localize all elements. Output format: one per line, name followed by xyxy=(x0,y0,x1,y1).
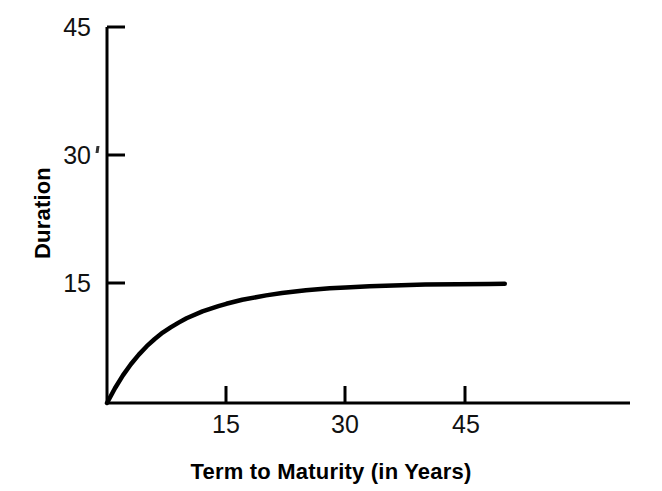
y-axis-tick-label-15: 15 xyxy=(31,271,91,296)
x-axis-tick-label-30: 30 xyxy=(315,412,375,437)
x-axis-tick-label-45: 45 xyxy=(436,412,496,437)
duration-curve xyxy=(107,284,505,403)
x-axis-title: Term to Maturity (in Years) xyxy=(0,459,662,485)
y-axis-tick-label-45: 45 xyxy=(31,15,91,40)
x-axis-tick-label-15: 15 xyxy=(196,412,256,437)
duration-chart-figure: 45 30 15 15 30 45 Duration Term to Matur… xyxy=(0,0,662,491)
y-axis-title: Duration xyxy=(30,153,56,273)
